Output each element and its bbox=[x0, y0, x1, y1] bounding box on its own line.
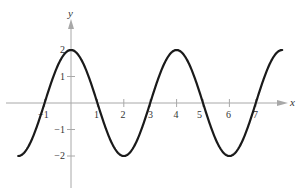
x-tick-label: 1 bbox=[94, 109, 99, 120]
x-axis-arrow-icon bbox=[277, 100, 288, 106]
x-tick-label: 6 bbox=[226, 109, 231, 120]
y-axis-arrow-icon bbox=[68, 19, 74, 29]
chart-svg: x y −1 1 2 3 4 5 6 7 bbox=[0, 0, 297, 188]
y-tick-label: −1 bbox=[54, 124, 65, 135]
x-tick-label: 5 bbox=[197, 109, 202, 120]
y-tick-label: −2 bbox=[54, 150, 65, 161]
x-tick-label: 2 bbox=[121, 109, 126, 120]
y-tick-label: 1 bbox=[60, 71, 65, 82]
x-tick-label: 4 bbox=[174, 109, 179, 120]
x-axis-label: x bbox=[289, 96, 295, 108]
cosine-chart: x y −1 1 2 3 4 5 6 7 bbox=[0, 0, 297, 188]
y-axis-label: y bbox=[67, 7, 73, 19]
